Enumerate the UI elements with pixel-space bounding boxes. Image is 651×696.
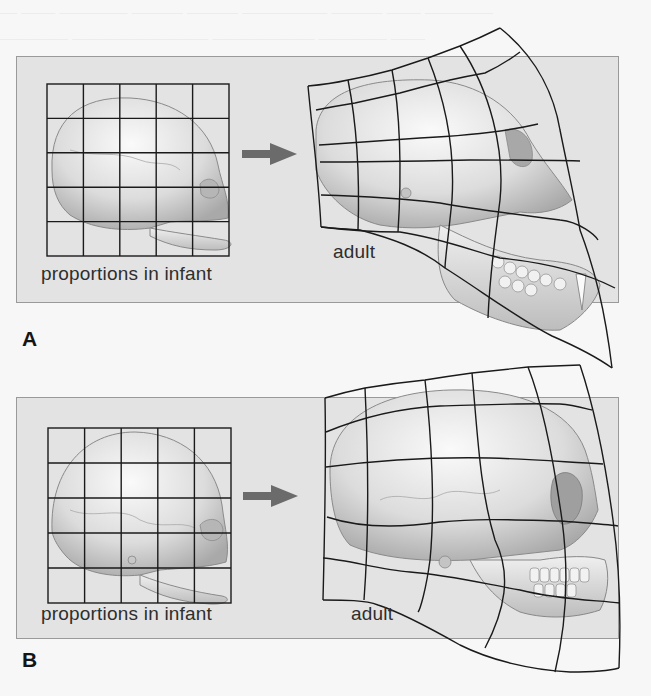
infant-skull-a — [52, 98, 231, 250]
figure-artwork — [0, 0, 651, 696]
infant-skull-b — [52, 432, 228, 604]
panel-letter-a: A — [22, 327, 37, 351]
panel-letter-b: B — [22, 648, 37, 672]
adult-label-b: adult — [351, 603, 393, 625]
adult-label-a: adult — [333, 241, 375, 263]
arrow-right-icon — [242, 143, 297, 165]
infant-label-a: proportions in infant — [41, 263, 212, 285]
infant-label-b: proportions in infant — [41, 603, 212, 625]
arrow-right-icon — [243, 485, 298, 507]
